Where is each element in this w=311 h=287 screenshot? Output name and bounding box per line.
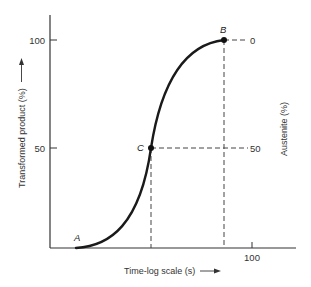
point-label-a: A <box>73 232 80 243</box>
x-axis-label: Time-log scale (s) <box>124 266 195 276</box>
y-tick-label-100: 100 <box>29 35 45 46</box>
point-label-c: C <box>137 142 144 153</box>
transformation-curve <box>76 40 224 248</box>
y-tick-label-50: 50 <box>34 143 45 154</box>
right-tick-label-50: 50 <box>250 143 261 154</box>
point-b-marker <box>221 37 227 43</box>
point-c-marker <box>148 145 154 151</box>
right-tick-label-0: 0 <box>250 35 255 46</box>
y-axis-right-label: Austenite (%) <box>279 102 289 156</box>
arrow-right-icon <box>214 269 221 274</box>
transformation-diagram: 100 50 100 0 50 A C B Transformed produc… <box>0 0 311 287</box>
x-tick-label-100: 100 <box>244 252 260 263</box>
arrow-up-icon <box>19 58 24 65</box>
y-axis-left-label: Transformed product (%) <box>17 88 27 188</box>
point-label-b: B <box>220 24 227 35</box>
